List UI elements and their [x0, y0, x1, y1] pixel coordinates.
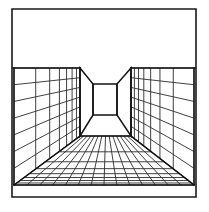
perspective-room-figure [0, 0, 209, 212]
perspective-scene [0, 0, 209, 212]
